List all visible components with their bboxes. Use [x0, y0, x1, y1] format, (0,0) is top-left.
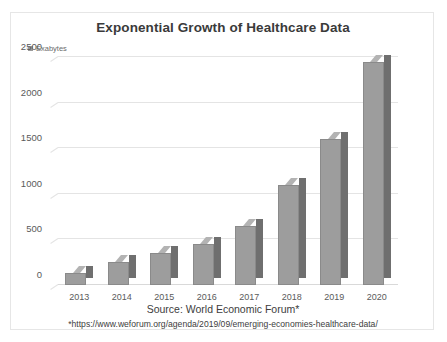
bar-front-face: [320, 139, 341, 285]
bar-side-face: [171, 246, 178, 278]
bar-side-face: [256, 219, 263, 278]
bar-top-face: [200, 237, 213, 244]
x-axis-tick-label: 2018: [271, 292, 314, 302]
x-axis-tick-label: 2016: [186, 292, 229, 302]
gridline-riser: [50, 56, 58, 62]
bar-top-face: [243, 219, 256, 226]
gridline-riser: [50, 147, 58, 153]
bar-column: [278, 178, 299, 285]
bar-top-face: [285, 178, 298, 185]
plot-area: 05001000150020002500 2013201420152016201…: [58, 57, 398, 285]
chart-container: Exponential Growth of Healthcare Data Ex…: [10, 12, 434, 330]
gridline-riser: [50, 102, 58, 108]
y-axis-tick-label: 500: [26, 223, 42, 234]
y-axis-tick-label: 0: [37, 269, 42, 280]
bar-column: [150, 246, 171, 285]
bar-column: [193, 237, 214, 285]
source-caption: Source: World Economic Forum*: [11, 303, 435, 315]
bar-column: [65, 266, 86, 285]
bar-front-face: [65, 273, 86, 285]
bar-side-face: [341, 132, 348, 278]
bar-side-face: [299, 178, 306, 278]
bar-front-face: [108, 262, 129, 285]
x-axis-tick-label: 2015: [143, 292, 186, 302]
gridline: [58, 102, 398, 103]
x-axis-tick-label: 2020: [356, 292, 399, 302]
bar-front-face: [235, 226, 256, 285]
bar-column: [363, 55, 384, 285]
bar-side-face: [384, 55, 391, 278]
bar-front-face: [193, 244, 214, 285]
bar-top-face: [158, 246, 171, 253]
bar-top-face: [370, 55, 383, 62]
gridline: [58, 56, 398, 57]
bar-front-face: [363, 62, 384, 285]
clipped-top-text: [0, 0, 447, 6]
bar-top-face: [73, 266, 86, 273]
chart-title: Exponential Growth of Healthcare Data: [11, 20, 435, 35]
x-axis-tick-label: 2019: [313, 292, 356, 302]
bar-column: [235, 219, 256, 285]
gridline-riser: [50, 193, 58, 199]
bar-top-face: [115, 255, 128, 262]
bar-top-face: [328, 132, 341, 139]
source-url-caption: *https://www.weforum.org/agenda/2019/09/…: [11, 319, 435, 329]
bar-side-face: [214, 237, 221, 278]
x-axis-tick-label: 2013: [58, 292, 101, 302]
bar-column: [320, 132, 341, 285]
y-axis-tick-label: 1000: [21, 177, 42, 188]
bar-front-face: [278, 185, 299, 285]
bar-column: [108, 255, 129, 285]
x-axis-tick-label: 2017: [228, 292, 271, 302]
bar-side-face: [129, 255, 136, 278]
y-axis-tick-label: 1500: [21, 132, 42, 143]
y-axis-tick-label: 2500: [21, 41, 42, 52]
bar-side-face: [86, 266, 93, 278]
y-axis-tick-label: 2000: [21, 86, 42, 97]
gridline-riser: [50, 238, 58, 244]
x-axis-tick-label: 2014: [101, 292, 144, 302]
bar-front-face: [150, 253, 171, 285]
